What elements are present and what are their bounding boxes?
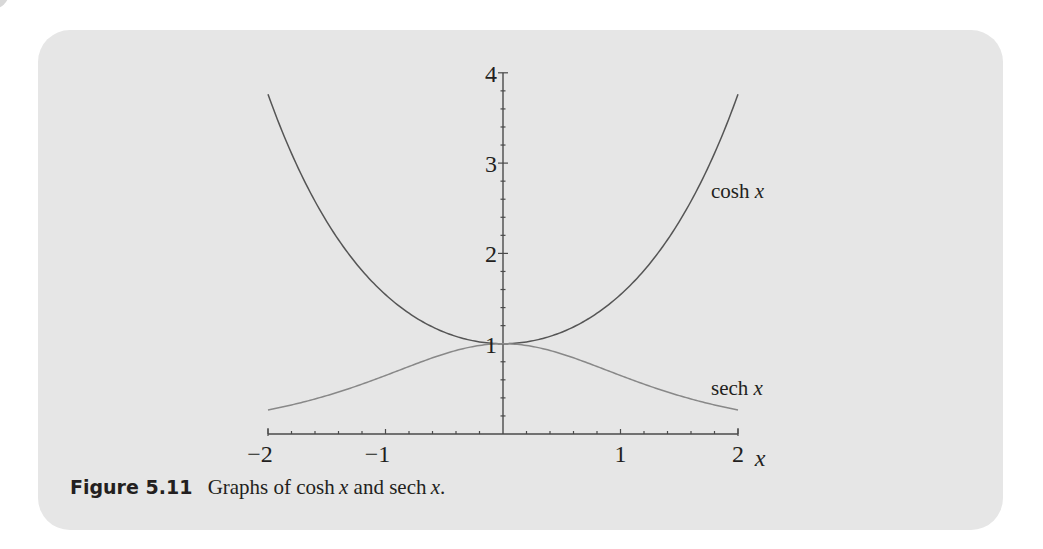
caption-text: Graphs of cosh x and sech x.: [208, 475, 446, 499]
figure-caption: Figure 5.11 Graphs of cosh x and sech x.: [70, 475, 445, 500]
labels: −2−112x1234cosh xsech x: [247, 61, 765, 471]
curve-label-func: cosh: [711, 179, 755, 203]
curve-label-func: sech: [711, 376, 754, 400]
curve-label-var: x: [754, 179, 765, 203]
y-tick-label: 3: [485, 151, 497, 177]
curve-label-var: x: [753, 376, 764, 400]
sech-x-label: sech x: [711, 376, 764, 400]
page: −2−112x1234cosh xsech x Figure 5.11 Grap…: [0, 0, 1043, 549]
cosh-x-label: cosh x: [711, 179, 765, 203]
x-tick-label: −1: [365, 441, 391, 467]
y-tick-label: 1: [485, 332, 497, 358]
figure-label: Figure 5.11: [70, 476, 192, 498]
y-tick-label: 2: [485, 241, 497, 267]
x-axis-label: x: [754, 445, 766, 471]
axes: [268, 73, 738, 436]
caption-math-var: x: [431, 475, 440, 499]
x-tick-label: −2: [247, 441, 273, 467]
y-tick-label: 4: [485, 61, 497, 87]
chart: −2−112x1234cosh xsech x: [0, 0, 1043, 549]
x-tick-label: 1: [615, 441, 627, 467]
caption-part: .: [440, 475, 445, 499]
x-tick-label: 2: [732, 441, 744, 467]
caption-part: and sech: [354, 475, 427, 499]
caption-part: Graphs of cosh: [208, 475, 335, 499]
caption-math-var: x: [339, 475, 348, 499]
